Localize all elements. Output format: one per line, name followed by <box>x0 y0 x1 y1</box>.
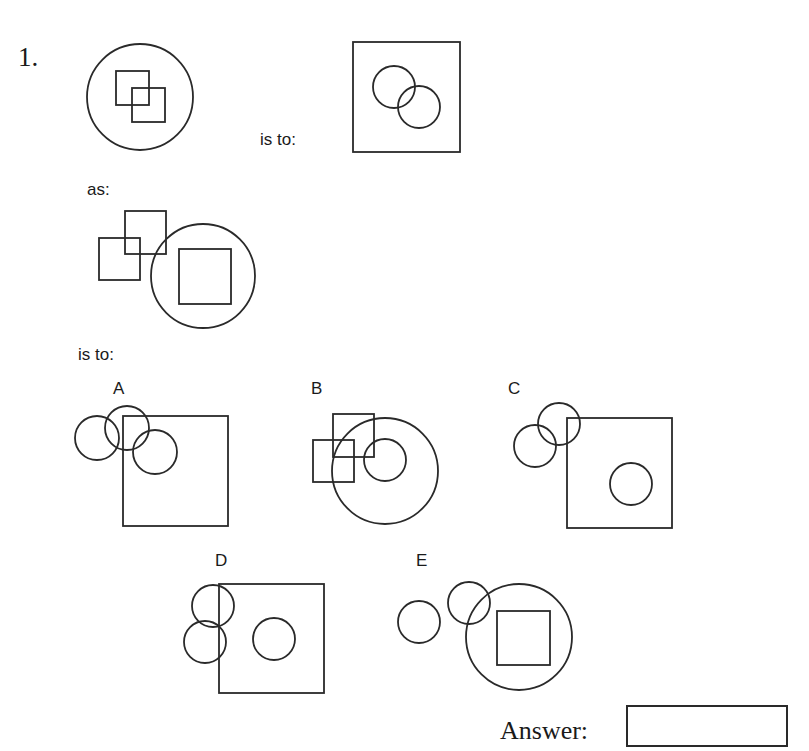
option-figure-c <box>514 403 672 528</box>
option-label-b: B <box>311 379 322 399</box>
option-label-a: A <box>113 379 124 399</box>
connector-is-to-1: is to: <box>260 130 296 150</box>
option-figure-a <box>75 406 228 526</box>
question-number: 1. <box>18 42 38 73</box>
stem-figure-3 <box>99 211 255 328</box>
connector-as: as: <box>87 180 110 200</box>
option-figure-d <box>184 584 324 693</box>
answer-label: Answer: <box>500 716 588 746</box>
option-figure-e <box>398 582 572 690</box>
stem-figure-1 <box>87 44 193 150</box>
option-label-d: D <box>215 551 227 571</box>
connector-is-to-2: is to: <box>78 345 114 365</box>
stem-figure-2 <box>353 42 460 152</box>
puzzle-figures <box>0 0 809 751</box>
answer-input-box[interactable] <box>626 705 788 747</box>
option-figure-b <box>313 414 438 524</box>
option-label-c: C <box>508 379 520 399</box>
option-label-e: E <box>416 551 427 571</box>
